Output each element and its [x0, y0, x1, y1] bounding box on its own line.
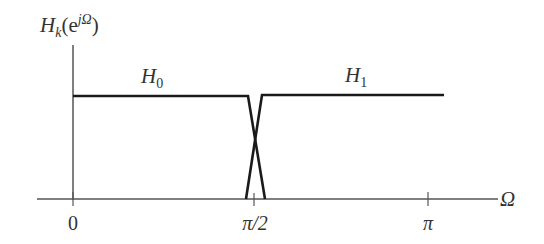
h1-curve [246, 95, 444, 199]
h1-label: H1 [344, 63, 367, 90]
h0-label: H0 [140, 64, 163, 91]
filter-response-diagram: Hk(ejΩ) H0 H1 Ω 0 π/2 π [0, 0, 544, 244]
y-axis-label: Hk(ejΩ) [39, 12, 99, 40]
tick-label-0: 0 [68, 212, 78, 234]
tick-label-pi: π [423, 212, 434, 234]
x-axis-label: Ω [500, 187, 515, 211]
tick-label-pi-half: π/2 [242, 212, 268, 234]
h0-curve [73, 96, 265, 199]
